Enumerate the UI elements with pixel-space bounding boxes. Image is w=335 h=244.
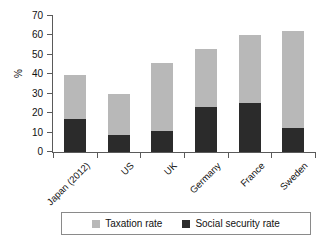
x-axis-label: Japan (2012) — [44, 160, 91, 207]
bar-segment-social-security-rate — [239, 103, 261, 152]
stacked-bar-chart: % 010203040506070 Japan (2012)USUKGerman… — [0, 0, 335, 244]
y-tick-label: 20 — [32, 107, 43, 119]
bar-stack — [239, 35, 261, 152]
y-tick-mark — [47, 15, 52, 16]
y-tick-mark — [47, 132, 52, 133]
y-tick-mark — [47, 34, 52, 35]
legend-label: Taxation rate — [105, 218, 162, 229]
y-tick: 60 — [0, 29, 52, 41]
x-axis-label: France — [238, 160, 267, 189]
y-tick-label: 0 — [37, 146, 43, 158]
bar-stack — [108, 94, 130, 152]
y-tick: 20 — [0, 107, 52, 119]
bar-segment-social-security-rate — [64, 119, 86, 152]
y-tick: 40 — [0, 68, 52, 80]
bar-segment-taxation-rate — [151, 63, 173, 130]
bar-segment-taxation-rate — [195, 49, 217, 108]
x-axis-label: US — [118, 160, 135, 177]
y-tick: 50 — [0, 49, 52, 61]
legend-entry: Social security rate — [182, 218, 279, 229]
bar-segment-taxation-rate — [239, 35, 261, 103]
x-tick-mark — [53, 153, 54, 158]
bar-segment-taxation-rate — [64, 75, 86, 119]
y-tick-label: 50 — [32, 49, 43, 61]
bar-stack — [195, 49, 217, 152]
y-tick: 70 — [0, 10, 52, 22]
x-axis-label: UK — [162, 160, 179, 177]
legend-swatch — [182, 220, 190, 228]
y-tick-label: 70 — [32, 10, 43, 22]
y-tick: 30 — [0, 88, 52, 100]
y-tick-mark — [47, 54, 52, 55]
y-tick-mark — [47, 93, 52, 94]
y-tick-mark — [47, 112, 52, 113]
x-tick-mark — [97, 153, 98, 158]
x-tick-mark — [271, 153, 272, 158]
x-tick-mark — [140, 153, 141, 158]
bar-stack — [282, 31, 304, 152]
bar-segment-taxation-rate — [282, 31, 304, 128]
x-axis-label: Sweden — [278, 160, 310, 192]
y-tick-label: 60 — [32, 29, 43, 41]
y-tick-label: 30 — [32, 88, 43, 100]
chart-legend: Taxation rateSocial security rate — [61, 212, 311, 235]
bar-segment-social-security-rate — [151, 131, 173, 152]
bar-segment-social-security-rate — [108, 135, 130, 152]
legend-label: Social security rate — [195, 218, 279, 229]
y-tick: 10 — [0, 127, 52, 139]
y-tick-mark — [47, 73, 52, 74]
x-tick-mark — [315, 153, 316, 158]
x-tick-mark — [228, 153, 229, 158]
bar-segment-taxation-rate — [108, 94, 130, 135]
y-tick-mark — [47, 151, 52, 152]
x-tick-mark — [184, 153, 185, 158]
legend-swatch — [92, 220, 100, 228]
y-tick: 0 — [0, 146, 52, 158]
bar-segment-social-security-rate — [195, 107, 217, 152]
y-axis-line — [52, 15, 53, 153]
bar-stack — [151, 63, 173, 152]
bar-segment-social-security-rate — [282, 128, 304, 152]
y-tick-label: 40 — [32, 68, 43, 80]
bar-stack — [64, 75, 86, 152]
legend-entry: Taxation rate — [92, 218, 162, 229]
y-tick-label: 10 — [32, 127, 43, 139]
x-axis-label: Germany — [187, 160, 222, 195]
